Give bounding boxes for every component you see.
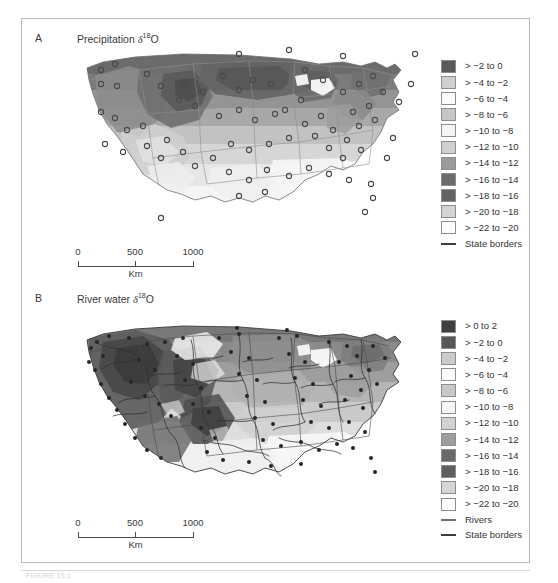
legend-b-line-label-1: State borders bbox=[465, 530, 522, 540]
legend-b-entry-11: > −22 to −20 bbox=[441, 496, 522, 512]
scalebar-a-numbers: 0 500 1000 bbox=[73, 246, 223, 259]
scalebar-b-line bbox=[73, 531, 223, 538]
precipitation-map-svg bbox=[43, 40, 433, 240]
legend-a-entry-4: > −10 to −8 bbox=[441, 123, 522, 139]
mass-number-b: 18 bbox=[138, 292, 146, 299]
legend-a-line-0: State borders bbox=[441, 236, 522, 251]
precipitation-map bbox=[43, 40, 433, 240]
legend-b-swatch-2 bbox=[441, 352, 456, 365]
river-water-map-svg bbox=[43, 312, 433, 512]
panel-b-title: River water δ18O bbox=[77, 292, 154, 305]
legend-a-entry-1: > −4 to −2 bbox=[441, 74, 522, 90]
scalebar-b-unit: Km bbox=[73, 539, 198, 550]
legend-b-line-0: Rivers bbox=[441, 512, 522, 527]
scalebar-a-tick-500: 500 bbox=[127, 246, 143, 257]
legend-a-label-9: > −20 to −18 bbox=[465, 207, 519, 217]
legend-a-entry-8: > −18 to −16 bbox=[441, 188, 522, 204]
legend-river-water: > 0 to 2 > −2 to 0 > −4 to −2 > −6 to −4… bbox=[441, 318, 522, 542]
legend-b-label-3: > −6 to −4 bbox=[465, 370, 508, 380]
legend-b-entry-7: > −14 to −12 bbox=[441, 431, 522, 447]
panel-b-letter: B bbox=[35, 292, 42, 304]
legend-b-entry-9: > −18 to −16 bbox=[441, 464, 522, 480]
scalebar-a-tick-0: 0 bbox=[75, 246, 80, 257]
scalebar-a: 0 500 1000 Km bbox=[73, 246, 223, 279]
legend-a-entry-3: > −8 to −6 bbox=[441, 107, 522, 123]
legend-b-line-label-0: Rivers bbox=[465, 515, 492, 525]
legend-a-swatch-10 bbox=[441, 221, 456, 234]
legend-b-label-11: > −22 to −20 bbox=[465, 499, 519, 509]
legend-b-swatch-4 bbox=[441, 384, 456, 397]
legend-b-entry-2: > −4 to −2 bbox=[441, 350, 522, 366]
legend-a-label-0: > −2 to 0 bbox=[465, 61, 503, 71]
legend-a-entry-6: > −14 to −12 bbox=[441, 155, 522, 171]
legend-a-swatch-9 bbox=[441, 205, 456, 218]
legend-a-swatch-8 bbox=[441, 189, 456, 202]
rivers-key-icon bbox=[441, 513, 456, 526]
legend-b-swatch-0 bbox=[441, 320, 456, 333]
scalebar-a-unit: Km bbox=[73, 268, 198, 279]
legend-a-label-10: > −22 to −20 bbox=[465, 223, 519, 233]
legend-a-swatch-7 bbox=[441, 173, 456, 186]
legend-b-entry-5: > −10 to −8 bbox=[441, 399, 522, 415]
legend-b-swatch-5 bbox=[441, 401, 456, 414]
legend-a-label-2: > −6 to −4 bbox=[465, 94, 508, 104]
legend-a-entry-9: > −20 to −18 bbox=[441, 204, 522, 220]
legend-b-label-5: > −10 to −8 bbox=[465, 402, 513, 412]
scalebar-b: 0 500 1000 Km bbox=[73, 517, 223, 550]
scalebar-a-tick-1000: 1000 bbox=[182, 246, 203, 257]
panel-a-letter: A bbox=[35, 32, 42, 44]
legend-b-swatch-9 bbox=[441, 465, 456, 478]
legend-b-swatch-7 bbox=[441, 433, 456, 446]
legend-a-entry-2: > −6 to −4 bbox=[441, 90, 522, 106]
legend-b-swatch-6 bbox=[441, 417, 456, 430]
legend-a-entry-10: > −22 to −20 bbox=[441, 220, 522, 236]
caption-divider bbox=[21, 570, 530, 571]
legend-b-swatch-10 bbox=[441, 481, 456, 494]
legend-b-line-1: State borders bbox=[441, 527, 522, 542]
legend-a-label-7: > −16 to −14 bbox=[465, 175, 519, 185]
legend-b-entry-6: > −12 to −10 bbox=[441, 415, 522, 431]
scalebar-b-tick-1000: 1000 bbox=[182, 517, 203, 528]
legend-b-entry-1: > −2 to 0 bbox=[441, 334, 522, 350]
legend-a-label-6: > −14 to −12 bbox=[465, 158, 519, 168]
legend-a-entry-0: > −2 to 0 bbox=[441, 58, 522, 74]
legend-b-label-0: > 0 to 2 bbox=[465, 321, 497, 331]
legend-b-label-9: > −18 to −16 bbox=[465, 467, 519, 477]
legend-a-swatch-1 bbox=[441, 76, 456, 89]
state-borders-key-icon-b bbox=[441, 528, 456, 541]
legend-b-label-6: > −12 to −10 bbox=[465, 418, 519, 428]
legend-b-entry-0: > 0 to 2 bbox=[441, 318, 522, 334]
legend-b-label-4: > −8 to −6 bbox=[465, 386, 508, 396]
legend-a-swatch-0 bbox=[441, 60, 456, 73]
legend-b-entry-4: > −8 to −6 bbox=[441, 383, 522, 399]
legend-b-entry-10: > −20 to −18 bbox=[441, 480, 522, 496]
legend-b-label-2: > −4 to −2 bbox=[465, 354, 508, 364]
legend-precipitation: > −2 to 0 > −4 to −2 > −6 to −4 > −8 to … bbox=[441, 58, 522, 251]
legend-a-line-label-0: State borders bbox=[465, 239, 522, 249]
legend-a-label-3: > −8 to −6 bbox=[465, 110, 508, 120]
legend-a-label-1: > −4 to −2 bbox=[465, 78, 508, 88]
scalebar-a-line bbox=[73, 260, 223, 267]
legend-a-label-4: > −10 to −8 bbox=[465, 126, 513, 136]
legend-b-entry-8: > −16 to −14 bbox=[441, 448, 522, 464]
legend-b-label-7: > −14 to −12 bbox=[465, 435, 519, 445]
legend-b-label-1: > −2 to 0 bbox=[465, 338, 503, 348]
legend-a-entry-5: > −12 to −10 bbox=[441, 139, 522, 155]
panel-river-water: B River water δ18O bbox=[21, 286, 530, 563]
state-borders-key-icon bbox=[441, 237, 456, 250]
panel-precipitation: A Precipitation δ18O bbox=[21, 18, 530, 286]
legend-a-label-5: > −12 to −10 bbox=[465, 142, 519, 152]
scalebar-b-numbers: 0 500 1000 bbox=[73, 517, 223, 530]
figure-caption: FIGURE 10.1 bbox=[26, 572, 526, 579]
legend-b-swatch-1 bbox=[441, 336, 456, 349]
legend-b-label-10: > −20 to −18 bbox=[465, 483, 519, 493]
legend-b-swatch-3 bbox=[441, 368, 456, 381]
legend-a-label-8: > −18 to −16 bbox=[465, 191, 519, 201]
legend-a-swatch-5 bbox=[441, 141, 456, 154]
legend-a-swatch-4 bbox=[441, 124, 456, 137]
legend-b-swatch-8 bbox=[441, 449, 456, 462]
scalebar-b-tick-500: 500 bbox=[127, 517, 143, 528]
oxygen-symbol-b: O bbox=[146, 293, 154, 305]
river-water-map bbox=[43, 312, 433, 512]
legend-a-entry-7: > −16 to −14 bbox=[441, 171, 522, 187]
